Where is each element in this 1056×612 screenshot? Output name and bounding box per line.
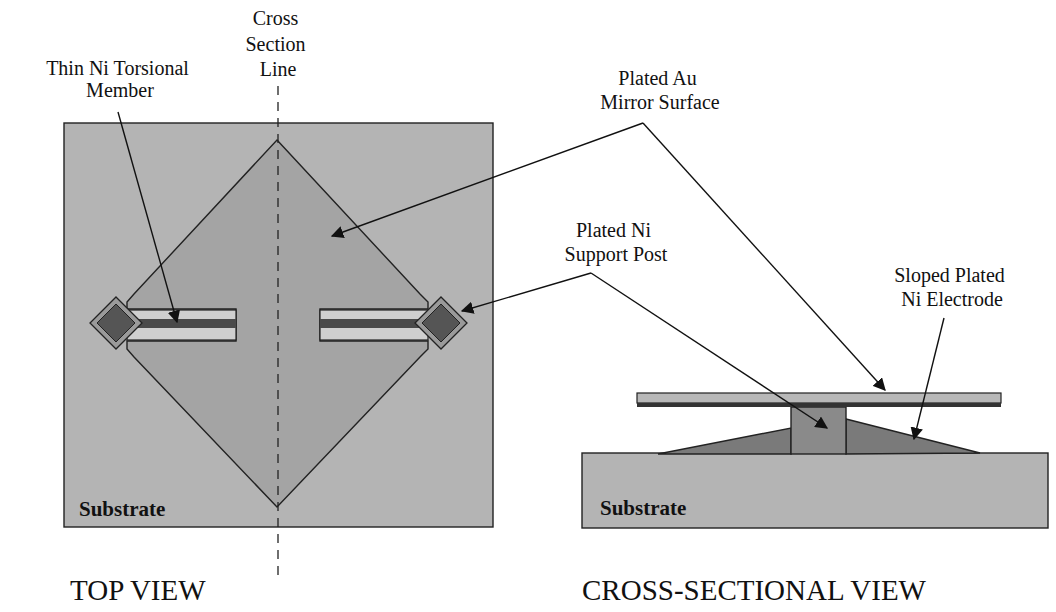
right-sloped-electrode: [846, 419, 980, 454]
electrode-leader: [914, 318, 944, 439]
top-view: Substrate TOP VIEW: [64, 86, 493, 606]
cross-section-line-label: Cross Section Line: [246, 7, 311, 80]
left-sloped-electrode: [658, 428, 791, 454]
mems-mirror-diagram: Substrate TOP VIEW Substrate CROSS-SECTI…: [0, 0, 1056, 612]
top-substrate-label: Substrate: [79, 497, 165, 521]
mirror-plate-section: [637, 393, 1001, 407]
mirror-surface-label: Plated Au Mirror Surface: [600, 67, 720, 113]
top-view-caption: TOP VIEW: [70, 574, 206, 606]
cross-substrate-label: Substrate: [600, 496, 686, 520]
left-torsion-beam: [127, 319, 236, 328]
torsional-member-label: Thin Ni Torsional Member: [46, 57, 194, 101]
cross-section-view: Substrate CROSS-SECTIONAL VIEW: [582, 393, 1048, 606]
support-post-label: Plated Ni Support Post: [565, 219, 668, 266]
cross-section-caption: CROSS-SECTIONAL VIEW: [582, 574, 927, 606]
right-torsion-beam: [320, 319, 430, 328]
electrode-label: Sloped Plated Ni Electrode: [894, 264, 1010, 310]
mirror-surface-leader-cross: [643, 123, 885, 390]
support-post: [791, 407, 846, 454]
